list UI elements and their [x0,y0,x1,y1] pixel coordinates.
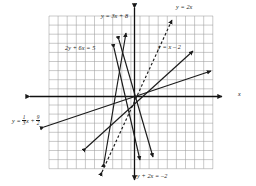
label-line-2y-plus-6x-5: 2y + 6x = 5 [65,45,95,51]
label-eq-prefix: y = [12,117,22,124]
x-axis-label: x [238,91,241,97]
line-x-minus-2 [86,51,193,148]
label-line-2x: y = 2x [176,4,192,10]
label-line-x-minus-2: y = x – 2 [158,44,181,50]
y-axis-label: y [134,1,137,7]
label-line-3x-plus-8: y = 3x + 8 [101,13,128,19]
label-eq-var: x + [26,117,36,124]
graph-figure: y x y = 3x + 8 y = 2x 2y + 6x = 5 y = x … [0,0,256,186]
label-line-one-third-x: y = 13x + 92 [12,115,40,127]
constant-denominator: 2 [36,121,40,126]
line-y-plus-2x-neg2 [119,40,153,157]
grid-lines [49,16,213,169]
line-2y-plus-6x-5 [114,48,140,160]
line-one-third-x [44,71,211,127]
graph-canvas [0,0,256,186]
constant-fraction: 92 [36,115,40,127]
label-line-y-plus-2x-neg2: y + 2x = –2 [137,173,167,179]
